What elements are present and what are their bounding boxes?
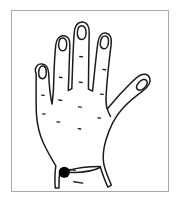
hand-illustration [12, 11, 168, 191]
acupressure-point-marker[interactable] [59, 167, 70, 178]
fingernail-ring-finger [59, 38, 67, 51]
figure-frame [11, 10, 169, 192]
figure-root: Line drawing of the dorsal view of a rig… [0, 0, 181, 203]
fingernail-index-finger [100, 36, 108, 49]
fingernail-middle-finger [77, 26, 86, 40]
tick-upper [70, 169, 75, 170]
fingernail-little-finger [39, 66, 47, 79]
